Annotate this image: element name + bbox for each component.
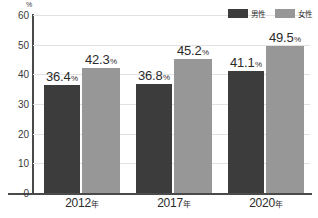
bar-value-label-2017-female: 45.2% <box>177 44 209 57</box>
y-tick-label-50: 50 <box>18 39 29 50</box>
bar-2017-male: 36.8% <box>136 84 172 193</box>
x-axis-label-2017: 2017年 <box>157 196 191 210</box>
legend-swatch-male-icon <box>228 9 248 18</box>
bar-2020-male: 41.1% <box>228 71 264 193</box>
legend-label-male: 男性 <box>251 8 265 19</box>
y-tick-label-10: 10 <box>18 158 29 169</box>
y-tick-label-20: 20 <box>18 128 29 139</box>
legend-item-male: 男性 <box>228 8 265 19</box>
bar-2012-female: 42.3% <box>82 68 120 194</box>
legend-item-female: 女性 <box>275 8 312 19</box>
bar-value-label-2017-male: 36.8% <box>138 69 170 82</box>
y-tick-label-0: 0 <box>23 188 29 199</box>
bar-2012-male: 36.4% <box>44 85 80 193</box>
bar-value-label-2020-male: 41.1% <box>230 56 262 69</box>
legend: 男性 女性 <box>228 8 312 19</box>
bar-value-label-2012-female: 42.3% <box>85 53 117 66</box>
plot-area: 60 50 40 30 20 10 0 36.4% 42.3% 36.8% 45… <box>33 15 310 193</box>
x-axis-label-2012: 2012年 <box>65 196 99 210</box>
bar-2020-female: 49.5% <box>266 46 304 193</box>
y-tick-label-60: 60 <box>18 10 29 21</box>
bar-chart: % 60 50 40 30 20 10 0 36.4% 42.3% 36.8% … <box>0 0 318 218</box>
legend-label-female: 女性 <box>298 8 312 19</box>
x-axis-label-2020: 2020年 <box>249 196 283 210</box>
x-axis-line <box>8 193 312 195</box>
y-tick-label-30: 30 <box>18 99 29 110</box>
bar-value-label-2012-male: 36.4% <box>46 70 78 83</box>
legend-swatch-female-icon <box>275 9 295 18</box>
bar-2017-female: 45.2% <box>174 59 212 193</box>
y-axis-unit-label: % <box>26 1 32 8</box>
bar-value-label-2020-female: 49.5% <box>269 31 301 44</box>
y-tick-label-40: 40 <box>18 69 29 80</box>
